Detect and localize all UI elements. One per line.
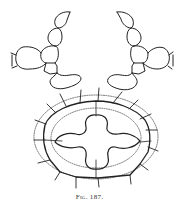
figure-illustration <box>0 0 179 205</box>
upper-right-cell-chain <box>108 12 173 90</box>
cross-section <box>34 88 158 188</box>
upper-left-cell-chain <box>11 12 81 89</box>
figure-caption: Fig. 187. <box>0 193 179 201</box>
